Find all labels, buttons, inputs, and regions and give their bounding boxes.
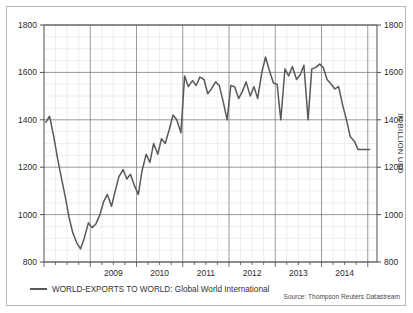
y-tick-label-right: 1600 <box>384 67 403 77</box>
x-tick-label: 2014 <box>335 268 354 278</box>
x-tick-label: 2011 <box>197 268 216 278</box>
x-axis: 200920102011201220132014 <box>44 262 368 278</box>
y-axis-title: IN BILLION USD <box>396 113 405 174</box>
y-tick-label-left: 1200 <box>18 162 37 172</box>
legend-label: WORLD-EXPORTS TO WORLD: Global World Int… <box>52 285 270 294</box>
y-tick-label-right: 1800 <box>384 20 403 30</box>
y-tick-label-left: 1000 <box>18 210 37 220</box>
x-tick-label: 2009 <box>104 268 123 278</box>
line-chart: 8008001000100012001200140014001600160018… <box>0 0 413 313</box>
y-tick-label-left: 800 <box>23 257 37 267</box>
chart-legend: WORLD-EXPORTS TO WORLD: Global World Int… <box>30 285 270 294</box>
y-tick-label-right: 800 <box>384 257 398 267</box>
x-tick-label: 2012 <box>243 268 262 278</box>
y-tick-label-left: 1600 <box>18 67 37 77</box>
x-tick-label: 2013 <box>289 268 308 278</box>
x-tick-label: 2010 <box>150 268 169 278</box>
y-tick-label-right: 1000 <box>384 210 403 220</box>
y-tick-label-left: 1400 <box>18 115 37 125</box>
chart-figure: 8008001000100012001200140014001600160018… <box>0 0 413 313</box>
source-note: Source: Thompson Reuters Datastream <box>284 293 401 301</box>
y-tick-label-left: 1800 <box>18 20 37 30</box>
